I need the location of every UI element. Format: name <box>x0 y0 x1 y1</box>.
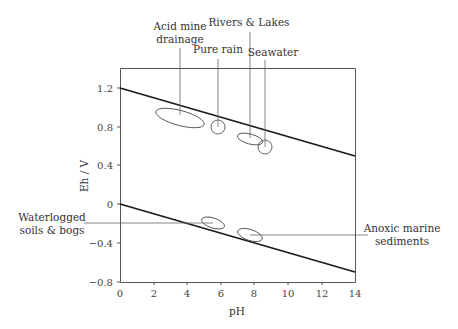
y-tick-label: −0.8 <box>89 277 113 288</box>
x-tick-label: 6 <box>218 288 224 299</box>
anoxic-label-line2: sediments <box>375 235 429 247</box>
y-tick-label: −0.4 <box>89 238 113 249</box>
y-tick-label: 0.8 <box>97 122 113 133</box>
y-tick-label: 1.2 <box>97 83 113 94</box>
x-tick-label: 12 <box>316 288 329 299</box>
x-axis-label: pH <box>229 305 245 317</box>
waterlogged-label-line2: soils & bogs <box>20 224 85 236</box>
waterlogged-label-line1: Waterlogged <box>18 211 86 223</box>
leader-lines <box>84 32 368 235</box>
x-tick-label: 2 <box>151 288 157 299</box>
eh-ph-chart: 1.2 0.8 0.4 0 −0.4 −0.8 0 2 4 6 8 10 12 … <box>0 0 458 329</box>
y-axis-label: Eh / V <box>78 159 90 192</box>
anoxic-label-line1: Anoxic marine <box>363 222 441 234</box>
x-ticks: 0 2 4 6 8 10 12 14 <box>117 282 362 299</box>
x-tick-label: 8 <box>251 288 257 299</box>
acid-mine-label-line1: Acid mine <box>152 20 206 32</box>
upper-stability-line <box>120 88 355 156</box>
y-tick-label: 0 <box>107 199 113 210</box>
x-tick-label: 4 <box>184 288 190 299</box>
y-tick-label: 0.4 <box>97 160 113 171</box>
x-tick-label: 14 <box>349 288 362 299</box>
seawater-label: Seawater <box>248 46 299 58</box>
plot-frame <box>121 69 356 283</box>
lower-stability-line <box>120 204 355 272</box>
rivers-lakes-label: Rivers & Lakes <box>208 16 289 28</box>
y-ticks: 1.2 0.8 0.4 0 −0.4 −0.8 <box>89 83 120 288</box>
x-tick-label: 0 <box>117 288 123 299</box>
x-tick-label: 10 <box>282 288 295 299</box>
pure-rain-label: Pure rain <box>193 43 243 55</box>
